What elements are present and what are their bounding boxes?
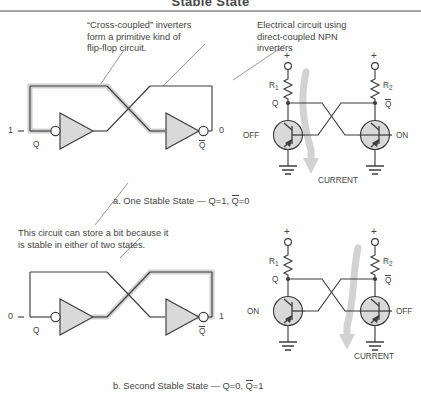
right-annotation: Electrical circuit using direct-coupled … [257,20,417,55]
caption-b: b. Second Stable State — Q=0, Q=1 [113,381,263,391]
circuit-top-left-state: OFF [243,131,259,140]
logic-top-input-value: 1 [8,125,13,135]
caption-a: a. One Stable State — Q=1, Q=0 [113,196,249,206]
logic-top-output-value: 0 [219,125,224,135]
circuit-bottom-right-state: OFF [396,307,412,316]
logic-bottom-input-value: 0 [8,311,13,321]
logic-bottom-output-value: 1 [219,311,224,321]
circuit-top-r1: R1 [269,81,278,91]
left-annotation: “Cross-coupled” inverters form a primiti… [87,20,237,55]
logic-top-qbar-text: Q [199,141,205,150]
logic-top-q-label: Q [33,140,39,149]
circuit-bottom-supply-left: + [284,226,290,237]
logic-top-qbar-label: Q [199,141,205,150]
circuit-bottom-r2: R2 [383,257,392,267]
logic-bottom-qbar-text: Q [199,327,205,336]
logic-bottom-qbar-label: Q [199,327,205,336]
circuit-top-supply-left: + [284,50,290,61]
circuit-top-right-state: ON [396,131,408,140]
circuit-bottom-supply-right: + [371,226,377,237]
circuit-bottom-node-qbar: Q [385,276,391,285]
circuit-bottom-current-label: CURRENT [354,352,394,361]
middle-annotation: This circuit can store a bit because it … [18,228,228,251]
circuit-bottom-r1: R1 [269,257,278,267]
circuit-top-current-label: CURRENT [318,176,358,185]
circuit-bottom-node-q: Q [272,275,278,284]
circuit-top-r2: R2 [383,81,392,91]
logic-bottom-q-label: Q [33,326,39,335]
circuit-top-node-qbar: Q [385,100,391,109]
circuit-bottom-left-state: ON [247,307,259,316]
circuit-top-supply-right: + [371,50,377,61]
diagram-canvas: Stable State [0,0,421,397]
circuit-top-node-q: Q [272,99,278,108]
